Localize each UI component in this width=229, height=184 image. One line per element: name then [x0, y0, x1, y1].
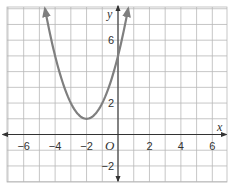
- x-tick-label: 4: [178, 140, 184, 152]
- y-tick-label: 2: [108, 97, 114, 109]
- origin-label: O: [105, 138, 115, 153]
- y-tick-label: −2: [101, 160, 114, 172]
- y-axis-label: y: [106, 7, 113, 21]
- coordinate-plane: −6−4−2246 62−2 x y O: [0, 0, 229, 184]
- x-tick-label: −6: [17, 140, 30, 152]
- x-tick-label: 6: [209, 140, 215, 152]
- x-axis-label: x: [216, 120, 223, 134]
- x-tick-label: −2: [80, 140, 93, 152]
- y-tick-label: 6: [108, 34, 114, 46]
- x-tick-label: 2: [146, 140, 152, 152]
- x-tick-labels: −6−4−2246: [17, 140, 215, 152]
- grid-lines: [7, 7, 227, 182]
- x-tick-label: −4: [49, 140, 62, 152]
